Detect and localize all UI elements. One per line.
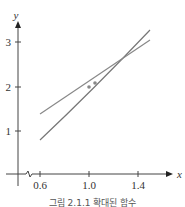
data-point bbox=[87, 85, 91, 89]
data-point bbox=[93, 81, 97, 85]
y-tick-label: 1 bbox=[6, 125, 12, 137]
x-tick-label: 1.0 bbox=[82, 179, 96, 191]
curve bbox=[40, 30, 150, 140]
tangent-line bbox=[40, 40, 150, 114]
x-tick-label: 0.6 bbox=[33, 179, 47, 191]
y-axis-label: y bbox=[13, 9, 19, 21]
y-tick-label: 2 bbox=[6, 81, 12, 93]
y-axis-arrow-icon bbox=[15, 21, 21, 28]
figure-caption: 그림 2.1.1 확대된 함수 bbox=[0, 196, 185, 207]
axis-break-icon bbox=[26, 171, 32, 177]
x-axis-label: x bbox=[176, 168, 182, 180]
y-tick-label: 3 bbox=[6, 36, 12, 48]
x-axis-arrow-icon bbox=[166, 171, 173, 177]
chart: 0.6 1.0 1.4 1 2 3 y x bbox=[0, 0, 185, 207]
x-tick-label: 1.4 bbox=[131, 179, 145, 191]
